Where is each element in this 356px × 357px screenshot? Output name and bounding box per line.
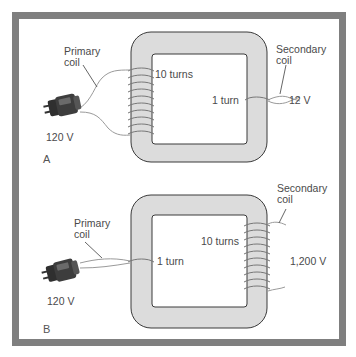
primary-label-a-line2: coil — [64, 56, 80, 68]
primary-voltage-b: 120 V — [47, 295, 74, 307]
secondary-label-a-line2: coil — [276, 54, 292, 66]
primary-turns-a: 10 turns — [155, 68, 193, 80]
secondary-voltage-b: 1,200 V — [290, 255, 326, 267]
secondary-label-b-line2: coil — [277, 193, 293, 205]
secondary-turns-a: 1 turn — [212, 94, 239, 106]
primary-voltage-a: 120 V — [46, 131, 73, 143]
secondary-voltage-a: 12 V — [289, 94, 311, 106]
panel-label-b: B — [43, 323, 50, 335]
primary-turns-b: 1 turn — [157, 255, 184, 267]
panel-label-a: A — [43, 153, 51, 165]
primary-label-b-line2: coil — [74, 228, 90, 240]
secondary-turns-b: 10 turns — [201, 235, 239, 247]
transformer-diagram: Primary coil 10 turns 120 V Secondary co… — [0, 0, 356, 357]
